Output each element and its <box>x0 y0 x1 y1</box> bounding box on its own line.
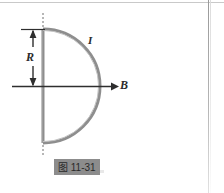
current-label: I <box>88 34 92 46</box>
radius-arrowhead-up <box>30 30 37 39</box>
figure-caption-text: 图 11-31 <box>58 162 96 173</box>
magnetic-field-label: B <box>120 78 128 93</box>
figure-page: R I B 图 11-31 <box>0 0 224 193</box>
figure-caption-highlight[interactable]: 图 11-31 <box>54 159 100 175</box>
semicircle-field-diagram <box>0 0 224 193</box>
radius-arrowhead-down <box>30 78 37 87</box>
field-arrowhead <box>111 83 119 91</box>
radius-label: R <box>26 50 34 65</box>
